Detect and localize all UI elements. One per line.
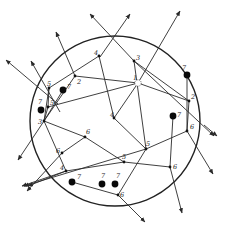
node-label: 5: [146, 140, 150, 148]
node-label: 5: [47, 80, 51, 88]
node-label: 7: [116, 172, 121, 180]
node-b3: [184, 72, 191, 79]
node-label: 4: [93, 49, 98, 57]
boundary-circle: [30, 36, 200, 206]
node-n2a: [74, 75, 77, 78]
node-n5d: [123, 161, 126, 164]
edge-n4a-n4b: [99, 56, 114, 118]
network-diagram: 122334445555666667777777: [0, 0, 230, 232]
arrow-icon: [100, 14, 130, 57]
node-b4: [170, 113, 177, 120]
node-label: 4: [59, 164, 64, 172]
arrow-icon: [28, 171, 66, 186]
node-n6b: [61, 152, 64, 155]
node-label: 2: [76, 78, 81, 86]
arrow-icon: [27, 153, 62, 191]
node-n5c: [145, 148, 148, 151]
edge-n1-n2b: [138, 83, 189, 101]
arrow-icon: [204, 125, 217, 136]
edge-n5d-n4c: [66, 162, 124, 171]
node-label: 5: [50, 99, 54, 107]
node-label: 6: [56, 147, 60, 155]
node-label: 7: [182, 64, 187, 72]
edge-n5d-n6d: [124, 162, 170, 167]
edge-n5c-n6c: [146, 131, 187, 149]
node-label: 3: [38, 118, 42, 126]
node-label: 6: [86, 128, 90, 136]
arrow-icon: [170, 167, 182, 213]
node-label: 3: [136, 54, 140, 62]
edge-n6d-b4: [170, 116, 173, 167]
node-label: 7: [77, 173, 82, 181]
node-label: 7: [67, 83, 72, 91]
node-labels: 122334445555666667777777: [38, 49, 195, 199]
node-label: 2: [190, 93, 195, 101]
node-n6e: [117, 194, 120, 197]
node-n6a: [84, 136, 87, 139]
node-n3b: [43, 120, 46, 123]
node-label: 6: [120, 191, 124, 199]
arrow-icon: [24, 149, 146, 186]
edge-n6a-n6b: [62, 137, 85, 153]
arrow-icon: [187, 131, 213, 174]
node-n6d: [169, 166, 172, 169]
node-label: 5: [122, 153, 126, 161]
node-n2b: [188, 100, 191, 103]
edge-n5a-n4a: [49, 56, 99, 88]
edge-b5-n6e: [72, 182, 118, 195]
node-label: 6: [190, 123, 194, 131]
node-b5: [69, 179, 76, 186]
node-label: 4: [109, 111, 114, 119]
node-b1: [60, 87, 67, 94]
node-b7: [112, 181, 119, 188]
node-label: 6: [173, 163, 177, 171]
node-b2: [38, 107, 45, 114]
node-n5b: [47, 106, 50, 109]
node-label: 7: [177, 111, 182, 119]
node-n4c: [65, 170, 68, 173]
edge-n6a-n5d: [85, 137, 124, 162]
node-n6c: [186, 130, 189, 133]
arrow-icon: [134, 61, 214, 136]
node-label: 7: [101, 172, 106, 180]
arrow-icon: [18, 121, 44, 160]
node-label: 1: [133, 74, 137, 82]
arrow-icon: [56, 32, 75, 76]
edge-n4b-n5c: [114, 118, 146, 149]
node-label: 7: [38, 98, 43, 106]
node-n3a: [133, 60, 136, 63]
arrow-icon: [118, 195, 145, 222]
edge-n2a-n1: [75, 76, 138, 83]
node-b6: [99, 181, 106, 188]
arrow-icon: [138, 11, 180, 83]
